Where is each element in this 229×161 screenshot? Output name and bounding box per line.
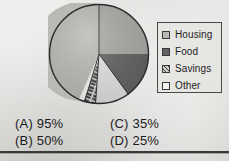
- pie-chart-svg: [48, 3, 150, 105]
- legend-swatch-food-icon: [162, 48, 170, 56]
- legend-item-housing: Housing: [162, 26, 221, 43]
- legend-swatch-other-icon: [162, 82, 170, 90]
- answer-option-b[interactable]: (B) 50%: [15, 133, 63, 148]
- legend-label-housing: Housing: [175, 29, 212, 40]
- legend-item-food: Food: [162, 43, 221, 60]
- legend-label-other: Other: [175, 80, 201, 91]
- answer-option-d[interactable]: (D) 25%: [110, 133, 159, 148]
- legend-swatch-savings-icon: [162, 65, 170, 73]
- legend-item-other: Other: [162, 77, 221, 94]
- legend-swatch-housing-icon: [162, 31, 170, 39]
- chart-legend: Housing Food Savings Other: [157, 22, 222, 93]
- legend-item-savings: Savings: [162, 60, 221, 77]
- page-divider-shadow: [0, 153, 229, 154]
- legend-label-food: Food: [175, 46, 198, 57]
- answer-option-a[interactable]: (A) 95%: [15, 116, 63, 131]
- legend-label-savings: Savings: [175, 63, 211, 74]
- pie-chart: [48, 3, 150, 105]
- answer-option-c[interactable]: (C) 35%: [110, 116, 159, 131]
- figure-stage: Housing Food Savings Other (A) 95% (B) 5…: [0, 0, 229, 161]
- answer-options: (A) 95% (B) 50% (C) 35% (D) 25%: [0, 116, 229, 152]
